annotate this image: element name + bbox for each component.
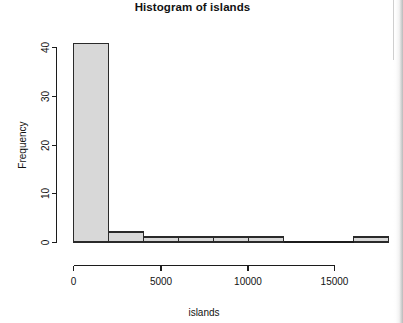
histogram-bar — [74, 44, 109, 243]
histogram-screenshot: Histogram of islands 0 10 20 30 40 F — [0, 0, 403, 323]
x-axis-title: islands — [188, 307, 219, 318]
y-axis-tick-labels: 0 10 20 30 40 — [40, 42, 51, 246]
histogram-bar — [249, 237, 284, 242]
histogram-bar — [144, 237, 179, 242]
histogram-bar — [179, 237, 214, 242]
histogram-bar — [214, 237, 249, 242]
y-axis-title: Frequency — [17, 121, 28, 168]
x-tick-label: 0 — [71, 276, 77, 287]
histogram-bar — [109, 232, 144, 242]
x-axis-ticks — [74, 266, 335, 271]
y-tick-label: 40 — [40, 42, 51, 54]
x-tick-label: 10000 — [234, 276, 262, 287]
y-tick-label: 20 — [40, 140, 51, 152]
histogram-bar — [354, 237, 389, 242]
y-tick-label: 30 — [40, 91, 51, 103]
histogram-svg: 0 10 20 30 40 Frequency — [0, 0, 403, 323]
chart-plot-area: 0 10 20 30 40 Frequency — [0, 0, 403, 323]
y-axis-ticks — [52, 48, 57, 243]
histogram-bars — [74, 44, 389, 243]
y-tick-label: 10 — [40, 188, 51, 200]
x-axis-tick-labels: 0 5000 10000 15000 — [71, 276, 349, 287]
x-tick-label: 15000 — [321, 276, 349, 287]
x-tick-label: 5000 — [150, 276, 173, 287]
y-tick-label: 0 — [40, 239, 51, 245]
